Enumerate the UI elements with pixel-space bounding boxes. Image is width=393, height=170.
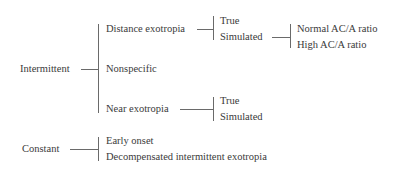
connector-intermittent — [81, 69, 98, 70]
node-high-aca-ratio: High AC/A ratio — [297, 39, 366, 51]
bracket-near-exotropia — [213, 97, 214, 121]
bracket-distance-exotropia — [213, 16, 214, 40]
bracket-intermittent — [98, 24, 99, 113]
node-decompensated: Decompensated intermittent exotropia — [106, 151, 267, 163]
bracket-constant — [98, 137, 99, 161]
node-distance-simulated: Simulated — [220, 31, 263, 43]
node-near-simulated: Simulated — [220, 111, 263, 123]
connector-simulated — [272, 37, 290, 38]
connector-distance-exotropia — [197, 29, 213, 30]
connector-near-exotropia — [180, 109, 213, 110]
node-near-exotropia: Near exotropia — [106, 103, 169, 115]
node-distance-true: True — [220, 15, 239, 27]
node-normal-aca-ratio: Normal AC/A ratio — [297, 23, 378, 35]
node-distance-exotropia: Distance exotropia — [106, 23, 185, 35]
node-intermittent: Intermittent — [20, 63, 70, 75]
bracket-simulated — [290, 24, 291, 48]
node-early-onset: Early onset — [106, 135, 154, 147]
connector-constant — [70, 149, 98, 150]
node-nonspecific: Nonspecific — [106, 63, 157, 75]
node-near-true: True — [220, 95, 239, 107]
node-constant: Constant — [22, 143, 59, 155]
